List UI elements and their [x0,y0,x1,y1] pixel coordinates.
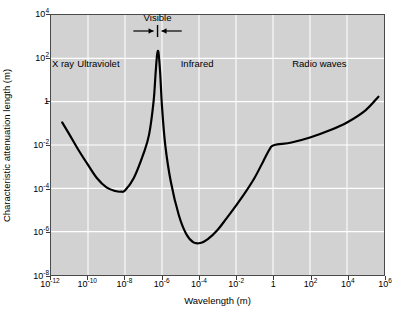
attenuation-length-chart: 10-1210-1010-810-610-410-211021041061041… [0,0,405,315]
data-curve [51,15,384,275]
y-tick-label: 102 [35,53,49,62]
x-tick-label: 10-2 [228,280,244,289]
y-axis-title-text: Characteristic attenuation length (m) [2,68,13,221]
y-tick-label: 104 [35,10,49,19]
y-tick-label: 10-4 [33,184,49,193]
y-axis-title: Characteristic attenuation length (m) [0,14,14,276]
x-tick-label: 1 [271,280,276,289]
x-tick-label: 104 [341,280,355,289]
y-tick-label: 1 [44,97,49,106]
band-label-radio-waves: Radio waves [292,58,346,69]
band-label-infrared: Infrared [181,58,214,69]
x-axis-title: Wavelength (m) [50,295,385,306]
y-tick-label: 10-8 [33,272,49,281]
x-tick-label: 106 [378,280,392,289]
band-label-ultraviolet: Ultraviolet [77,58,119,69]
x-tick-label: 10-6 [154,280,170,289]
x-tick-label: 10-4 [191,280,207,289]
band-label-x-ray: X ray [52,58,74,69]
visible-band-label: Visible [144,12,172,23]
x-tick-label: 10-12 [40,280,59,289]
x-tick-label: 10-8 [117,280,133,289]
plot-area [50,14,385,276]
x-tick-label: 102 [304,280,318,289]
y-tick-label: 10-2 [33,141,49,150]
x-tick-label: 10-10 [78,280,97,289]
y-tick-label: 10-6 [33,228,49,237]
